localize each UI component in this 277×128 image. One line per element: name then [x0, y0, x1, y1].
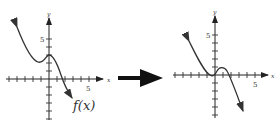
- left-graph: 5 5 x y f(x): [6, 10, 111, 120]
- right-function-curve: [189, 41, 243, 111]
- left-y-axis-label: y: [46, 10, 51, 18]
- right-y-tick-label: 5: [206, 32, 210, 40]
- transformation-diagram: 5 5 x y f(x): [0, 0, 277, 128]
- right-graph: 5 5 x y: [173, 8, 275, 118]
- function-label: f(x): [72, 98, 95, 113]
- right-arrow-icon: [118, 69, 163, 87]
- right-x-tick-label: 5: [253, 81, 257, 89]
- left-y-tick-label: 5: [40, 36, 44, 44]
- left-function-curve: [17, 27, 72, 98]
- left-x-axis-label: x: [107, 76, 111, 83]
- right-x-axis-label: x: [271, 72, 275, 79]
- right-y-axis-label: y: [212, 8, 217, 16]
- left-x-tick-label: 5: [86, 85, 90, 93]
